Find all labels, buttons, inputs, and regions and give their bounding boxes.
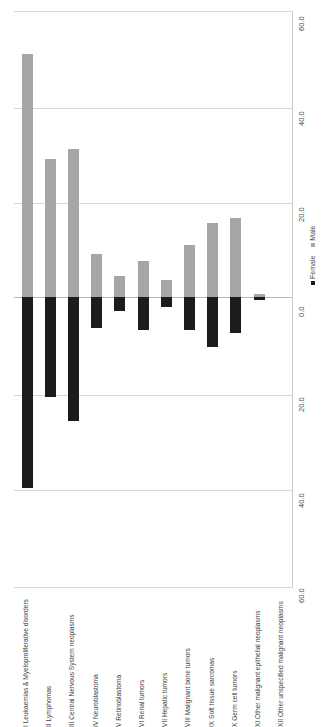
bar-female: [91, 297, 102, 328]
bar-group: [45, 0, 56, 600]
bar-male: [68, 149, 79, 297]
legend-swatch-male-icon: [311, 243, 315, 247]
bar-chart: 60.040.020.00.020.040.060.0 Female Male …: [0, 0, 331, 727]
bar-male: [114, 276, 125, 297]
bar-female: [254, 297, 265, 300]
x-tick-label: III Central Nervous System neoplasms: [68, 614, 76, 727]
bar-group: [22, 0, 33, 600]
y-tick-label: 60.0: [296, 563, 308, 603]
bar-group: [207, 0, 218, 600]
bar-group: [254, 0, 265, 600]
x-tick-label: IX Soft tissue sarcomas: [208, 658, 216, 727]
bar-group: [184, 0, 195, 600]
x-tick-label: XII Other unspecified malignant neoplasm…: [277, 601, 285, 727]
bar-male: [207, 223, 218, 297]
bar-female: [230, 297, 241, 333]
legend-entry-female: Female: [309, 256, 316, 285]
bar-female: [68, 297, 79, 421]
legend-label-male: Male: [309, 225, 316, 240]
chart-legend: Female Male: [309, 225, 316, 285]
legend-label-female: Female: [309, 256, 316, 279]
bar-female: [161, 297, 172, 307]
y-tick-label: 40.0: [296, 468, 308, 508]
bar-female: [114, 297, 125, 311]
bar-male: [91, 254, 102, 297]
y-tick-label: 20.0: [296, 182, 308, 222]
x-tick-label: V Retinoblastoma: [115, 675, 123, 727]
bar-male: [161, 280, 172, 297]
legend-entry-male: Male: [309, 225, 316, 246]
x-tick-label: IV Neuroblastoma: [92, 674, 100, 727]
bar-female: [138, 297, 149, 330]
x-tick-label: XI Other malignant epithelial neoplasms: [254, 610, 262, 727]
y-tick-label: 0.0: [296, 277, 308, 317]
x-tick-label: VI Renal tumors: [138, 680, 146, 727]
bar-male: [138, 261, 149, 297]
bar-group: [91, 0, 102, 600]
bar-male: [45, 159, 56, 297]
bar-series-container: [0, 0, 293, 600]
legend-swatch-female-icon: [311, 281, 315, 285]
bar-male: [22, 54, 33, 297]
bar-male: [184, 245, 195, 297]
x-tick-label: II Lymphomas: [45, 686, 53, 727]
bar-female: [207, 297, 218, 347]
y-tick-label: 40.0: [296, 86, 308, 126]
x-axis-category-labels: I Leukaemias & Myeloproliferative disord…: [0, 600, 331, 727]
bar-group: [230, 0, 241, 600]
bar-female: [184, 297, 195, 330]
bar-group: [277, 0, 288, 600]
bar-group: [138, 0, 149, 600]
x-tick-label: I Leukaemias & Myeloproliferative disord…: [22, 599, 30, 727]
bar-female: [22, 297, 33, 488]
x-tick-label: VIII Malignant bone tumors: [184, 648, 192, 727]
x-tick-label: VII Hepatic tumors: [161, 673, 169, 727]
y-tick-label: 20.0: [296, 372, 308, 412]
plot-area: [0, 0, 293, 600]
bar-group: [114, 0, 125, 600]
y-tick-label: 60.0: [296, 0, 308, 31]
x-tick-label: X Germ cell tumors: [231, 671, 239, 727]
bar-female: [45, 297, 56, 397]
bar-group: [68, 0, 79, 600]
bar-group: [161, 0, 172, 600]
bar-male: [230, 218, 241, 297]
